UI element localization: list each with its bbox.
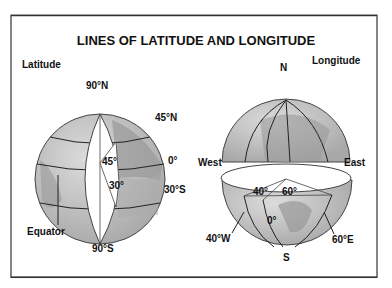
label-45n: 45°N [155,112,177,123]
angle-45: 45° [102,156,117,167]
latitude-heading: Latitude [22,59,61,70]
label-90s: 90°S [92,243,114,254]
label-west: West [198,157,222,168]
longitude-heading: Longitude [312,55,360,66]
diagram-title: LINES OF LATITUDE AND LONGITUDE [0,33,392,48]
angle-60: 60° [282,186,297,197]
label-0deg-lon: 0° [267,215,277,226]
label-n: N [280,62,287,73]
angle-40: 40° [253,186,268,197]
latitude-globe [35,114,165,244]
label-40w: 40°W [206,233,231,244]
equator-label: Equator [27,226,65,237]
label-east: East [344,157,365,168]
longitude-globe [221,99,352,247]
angle-30: 30° [109,180,124,191]
label-90n: 90°N [86,80,108,91]
label-s: S [283,252,290,263]
label-0deg-lat: 0° [168,155,178,166]
label-60e: 60°E [332,234,354,245]
label-30s: 30°S [164,184,186,195]
